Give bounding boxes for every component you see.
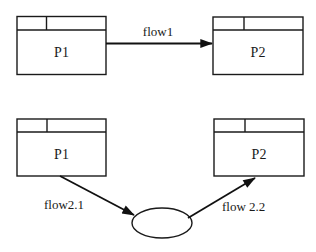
process-label: P2 (251, 45, 266, 60)
process-label: P1 (54, 147, 69, 162)
intermediate-node-ellipse[interactable] (132, 208, 192, 238)
process-label: P2 (252, 147, 267, 162)
flow-edge-flow2-1[interactable]: flow2.1 (44, 176, 134, 215)
flow-label: flow 2.2 (222, 199, 265, 214)
process-box-p2-bottom[interactable]: P2 (214, 119, 304, 176)
flow-edge-flow1[interactable]: flow1 (106, 24, 212, 44)
process-label: P1 (54, 45, 69, 60)
process-box-p1-bottom[interactable]: P1 (17, 119, 106, 176)
diagram-canvas: P1 P2 flow1 P1 P2 flow2.1 flow 2.2 (0, 0, 316, 252)
flow-edge-flow2-2[interactable]: flow 2.2 (188, 178, 265, 218)
flow-label: flow1 (143, 24, 173, 39)
process-box-p2-top[interactable]: P2 (213, 17, 303, 75)
flow-label: flow2.1 (44, 197, 84, 212)
process-box-p1-top[interactable]: P1 (17, 17, 106, 75)
